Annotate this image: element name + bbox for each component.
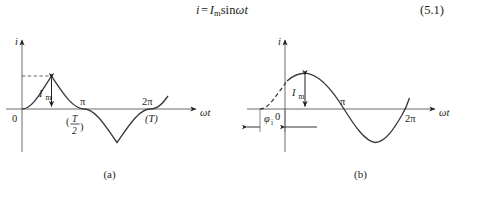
y-axis-label: i (278, 36, 281, 47)
x-axis-label: ωt (439, 107, 450, 118)
figure-panel-a: i ωt 0 I m π ( T 2 ) 2π (T) (a) (0, 30, 239, 198)
origin-label: 0 (275, 111, 280, 122)
equation-sine-function: sin (221, 3, 236, 17)
x-tick-secondary-open-paren: ( (66, 116, 70, 128)
panel-b-caption: (b) (241, 168, 478, 180)
equation-equals-sign: = (201, 3, 208, 17)
equation-amplitude-subscript: m (214, 8, 221, 18)
figure-panel-b: i ωt φ i 0 I m π 2π (b) (239, 30, 478, 198)
x-axis-label: ωt (200, 107, 211, 118)
x-tick-label-pi: π (80, 96, 86, 107)
pre-origin-dashed-curve (260, 81, 287, 109)
equation-number: (5.1) (420, 3, 444, 18)
phase-label: φ (264, 113, 270, 124)
equation-expression: i=Imsinωt (196, 3, 248, 18)
amplitude-subscript: m (299, 92, 305, 101)
equation-time-symbol: t (244, 3, 248, 17)
y-axis-label: i (15, 36, 18, 47)
phase-subscript: i (271, 118, 273, 127)
x-tick-label-pi: π (340, 96, 346, 107)
x-tick-secondary-numerator: T (72, 114, 78, 124)
x-tick-secondary-close-paren: ) (80, 121, 84, 133)
equation-current-symbol: i (196, 3, 200, 17)
panel-a-caption: (a) (0, 168, 229, 180)
x-tick-label-2pi: 2π (405, 113, 416, 124)
sine-plot-zero-phase: i ωt 0 I m π ( T 2 ) 2π (T) (0, 30, 239, 168)
x-tick-secondary-denominator: 2 (72, 126, 77, 136)
equation-row: i=Imsinωt (5.1) (0, 0, 478, 28)
x-tick-secondary-label-period: (T) (145, 113, 158, 125)
amplitude-subscript: m (46, 93, 52, 102)
amplitude-label: I (38, 88, 43, 99)
x-tick-label-2pi: 2π (142, 96, 153, 107)
origin-label: 0 (12, 113, 17, 124)
sine-plot-with-phase: i ωt φ i 0 I m π 2π (239, 30, 478, 168)
amplitude-label: I (291, 87, 296, 98)
